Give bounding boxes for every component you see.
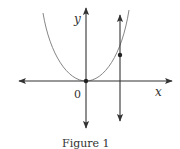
figure-1-diagram: y x 0 Figure 1	[0, 0, 180, 149]
origin-label: 0	[74, 88, 81, 101]
figure-caption: Figure 1	[62, 137, 110, 149]
x-axis-label: x	[155, 85, 162, 99]
y-axis-label: y	[73, 12, 81, 26]
intersection-point	[118, 53, 122, 57]
origin-point	[84, 79, 88, 83]
